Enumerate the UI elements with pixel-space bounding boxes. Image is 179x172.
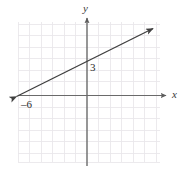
x-intercept-label: –6	[21, 99, 32, 110]
coordinate-plane-svg	[0, 0, 179, 172]
grid-lines	[18, 22, 160, 162]
y-intercept-label: 3	[90, 62, 96, 73]
y-axis-label: y	[83, 3, 88, 14]
plotted-line	[17, 29, 154, 97]
graph-figure: y x 3 –6	[0, 0, 179, 172]
x-axis-label: x	[172, 89, 177, 100]
